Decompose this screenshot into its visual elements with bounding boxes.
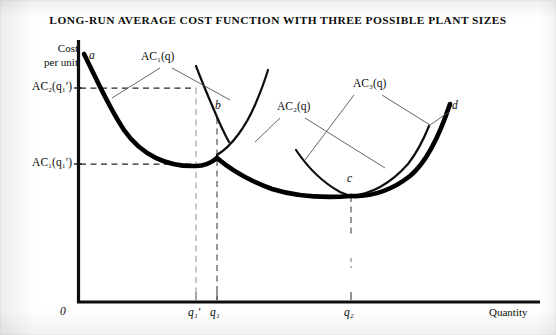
- point-label-d: d: [452, 99, 458, 111]
- x-axis-label: Quantity: [489, 306, 528, 318]
- leader-ac3-right: [382, 95, 430, 125]
- ac3-curve-thin-branch-left: [296, 150, 351, 196]
- point-label-b: b: [215, 99, 221, 111]
- y-tick-label-ac2: AC₂(q₁′): [2, 80, 72, 92]
- curve-label-ac3: AC₃(q): [353, 77, 386, 89]
- leader-ac2-right: [305, 118, 385, 168]
- ac2-curve-thin-branch-right: [351, 126, 429, 196]
- x-tick-label-q1: q₁: [210, 306, 220, 318]
- y-axis-label-line2: per unit: [26, 56, 78, 68]
- ac2-curve-thin-branch-left: [196, 66, 229, 142]
- curve-label-ac2: AC₂(q): [277, 100, 310, 112]
- origin-label: 0: [60, 305, 66, 317]
- figure-container: LONG-RUN AVERAGE COST FUNCTION WITH THRE…: [0, 0, 556, 335]
- ac1-curve-thin-branch: [217, 70, 268, 155]
- point-label-c: c: [347, 172, 352, 184]
- x-tick-label-q2: q₂: [344, 306, 354, 318]
- leader-ac1-left: [112, 68, 160, 98]
- x-tick-label-q1-prime: q₁′: [188, 306, 200, 318]
- envelope-segment-b-to-c: [217, 158, 351, 197]
- y-axis-label-line1: Cost: [32, 42, 78, 54]
- curve-label-ac1: AC₁(q): [141, 50, 174, 62]
- leader-ac3-left: [305, 95, 354, 160]
- leader-ac2-left: [255, 118, 280, 142]
- y-tick-label-ac1: AC₁(q₁′): [2, 156, 72, 168]
- leader-ac1-right: [172, 68, 230, 100]
- envelope-segment-c-to-d: [351, 104, 450, 196]
- chart-plot: [0, 0, 556, 335]
- point-label-a: a: [89, 49, 95, 61]
